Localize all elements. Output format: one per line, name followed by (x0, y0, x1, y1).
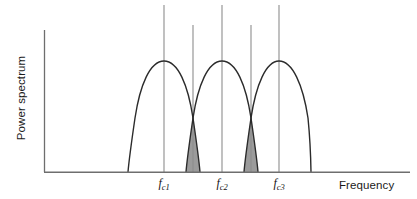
tick-label-fc3: fc3 (274, 176, 285, 191)
y-axis-title: Power spectrum (15, 33, 27, 163)
spectral-lobes (128, 61, 311, 172)
plot-canvas (0, 0, 417, 199)
tick-label-fc2-subscript: c2 (220, 182, 228, 192)
tick-label-fc3-subscript: c3 (277, 182, 285, 192)
power-spectrum-figure: Power spectrum Frequency fc1 fc2 fc3 (0, 0, 417, 199)
axes (44, 30, 410, 172)
tick-label-fc1: fc1 (159, 176, 170, 191)
x-axis-title: Frequency (339, 179, 394, 191)
tick-label-fc1-subscript: c1 (162, 182, 170, 192)
marker-lines (164, 5, 279, 172)
tick-label-fc2: fc2 (217, 176, 228, 191)
